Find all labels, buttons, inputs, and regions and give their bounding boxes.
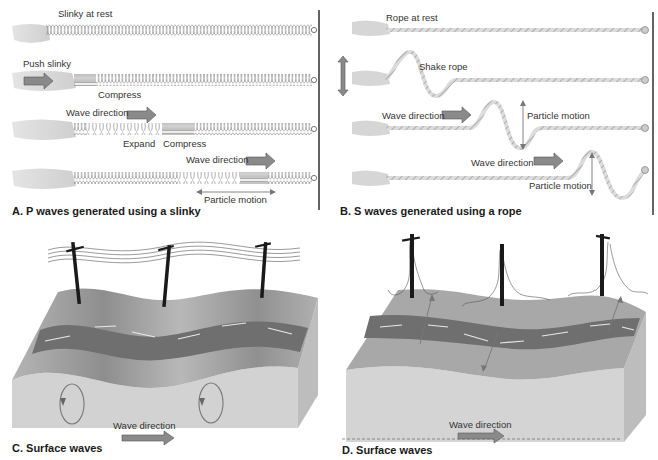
caption-b: B. S waves generated using a rope <box>340 205 522 217</box>
label-wave-direction: Wave direction <box>186 154 248 165</box>
panel-s-waves-rope: Rope at rest Shake rope Wave direction P… <box>330 0 658 220</box>
label-rope-at-rest: Rope at rest <box>386 12 438 23</box>
panel-surface-waves-rayleigh: Wave direction C. Surface waves <box>0 220 330 460</box>
rope-row-shake <box>338 52 649 96</box>
caption-d: D. Surface waves <box>342 444 433 456</box>
label-compress: Compress <box>163 138 206 149</box>
pole-icon <box>500 244 504 306</box>
slinky-row-particle-motion <box>12 153 317 195</box>
shake-arrow-icon <box>338 56 348 96</box>
label-slinky-at-rest: Slinky at rest <box>58 8 112 19</box>
label-particle-motion: Particle motion <box>204 194 267 205</box>
rope-illustration <box>330 0 658 220</box>
slinky-illustration <box>0 0 330 220</box>
hand-icon <box>352 170 390 186</box>
hand-icon <box>352 70 390 86</box>
label-expand: Expand <box>123 138 155 149</box>
hand-icon <box>352 20 390 36</box>
panel-surface-waves-love: Wave direction D. Surface waves <box>328 220 658 460</box>
block-front-face <box>346 366 624 442</box>
wave-direction-arrow-icon <box>127 107 156 123</box>
slinky-row-expand-compress <box>12 107 317 140</box>
hand-icon <box>12 24 50 43</box>
label-particle-motion: Particle motion <box>527 110 590 121</box>
label-shake-rope: Shake rope <box>419 61 468 72</box>
rope-row-wave-1 <box>352 100 649 150</box>
label-compress: Compress <box>98 89 141 100</box>
label-wave-direction: Wave direction <box>449 419 511 430</box>
wave-direction-arrow-icon <box>534 153 563 169</box>
hand-icon <box>352 120 390 136</box>
hand-icon <box>12 169 76 190</box>
caption-c: C. Surface waves <box>12 442 103 454</box>
caption-a: A. P waves generated using a slinky <box>12 205 201 217</box>
label-particle-motion: Particle motion <box>529 180 592 191</box>
label-wave-direction: Wave direction <box>66 107 128 118</box>
label-wave-direction: Wave direction <box>113 420 175 431</box>
slinky-row-rest <box>12 24 317 43</box>
hand-icon <box>12 120 76 141</box>
slinky-row-push <box>12 71 317 92</box>
wave-direction-arrow-icon <box>442 107 471 123</box>
pole-icon <box>410 234 414 298</box>
panel-p-waves-slinky: Slinky at rest Push slinky Compress Wave… <box>0 0 330 220</box>
label-push-slinky: Push slinky <box>23 58 71 69</box>
wave-direction-arrow-icon <box>122 431 174 445</box>
label-wave-direction: Wave direction <box>471 157 533 168</box>
label-wave-direction: Wave direction <box>382 110 444 121</box>
wave-direction-arrow-icon <box>246 153 275 169</box>
pole-icon <box>600 234 604 296</box>
